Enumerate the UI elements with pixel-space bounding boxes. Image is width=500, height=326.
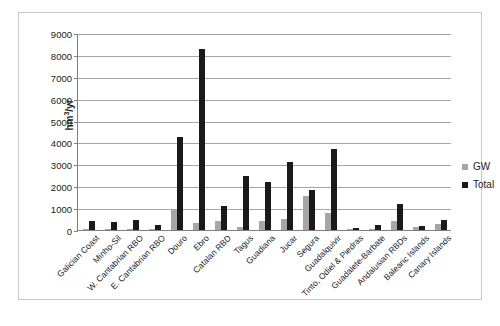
y-tick-label: 2000 bbox=[51, 182, 72, 193]
bar-gw bbox=[105, 229, 110, 231]
y-tick-label: 8000 bbox=[51, 50, 72, 61]
bar-gw bbox=[171, 210, 176, 230]
bar-gw bbox=[237, 227, 242, 230]
bar-group bbox=[149, 34, 160, 230]
x-axis-label: Douro bbox=[166, 233, 189, 256]
y-tick-label: 9000 bbox=[51, 29, 72, 40]
bar-group bbox=[215, 34, 226, 230]
bar-total bbox=[243, 176, 248, 230]
y-tick-mark bbox=[74, 231, 78, 232]
bar-total bbox=[89, 221, 94, 230]
y-tick-label: 0 bbox=[67, 226, 72, 237]
legend-item: Total bbox=[462, 179, 500, 190]
bar-group bbox=[347, 34, 358, 230]
bar-gw bbox=[413, 227, 418, 230]
y-tick-label: 4000 bbox=[51, 138, 72, 149]
bar-gw bbox=[215, 221, 220, 230]
bar-total bbox=[155, 225, 160, 230]
bar-gw bbox=[149, 229, 154, 231]
bar-total bbox=[133, 220, 138, 230]
y-tick-label: 3000 bbox=[51, 160, 72, 171]
bar-total bbox=[265, 182, 270, 230]
bar-total bbox=[441, 220, 446, 231]
bar-group bbox=[325, 34, 336, 230]
bar-total bbox=[287, 162, 292, 230]
y-tick-label: 5000 bbox=[51, 116, 72, 127]
y-tick-label: 1000 bbox=[51, 204, 72, 215]
x-axis-labels: Galician CoastMinho-SilW. Cantabrian RBO… bbox=[77, 233, 451, 326]
bar-group bbox=[127, 34, 138, 230]
bars-layer bbox=[78, 34, 451, 230]
plot-area: 0100020003000400050006000700080009000 bbox=[77, 34, 451, 231]
bar-total bbox=[111, 222, 116, 230]
y-tick-label: 7000 bbox=[51, 72, 72, 83]
bar-total bbox=[397, 204, 402, 230]
bar-total bbox=[419, 226, 424, 230]
bar-group bbox=[369, 34, 380, 230]
bar-total bbox=[199, 49, 204, 230]
y-tick-label: 6000 bbox=[51, 94, 72, 105]
bar-total bbox=[221, 206, 226, 230]
bar-group bbox=[259, 34, 270, 230]
legend-swatch-icon bbox=[462, 164, 468, 170]
bar-group bbox=[171, 34, 182, 230]
bar-gw bbox=[83, 229, 88, 231]
bar-total bbox=[353, 228, 358, 230]
bar-group bbox=[193, 34, 204, 230]
bar-group bbox=[83, 34, 94, 230]
bar-total bbox=[375, 225, 380, 230]
chart-legend: GWTotal bbox=[462, 161, 500, 197]
legend-label: Total bbox=[473, 179, 494, 190]
bar-gw bbox=[369, 229, 374, 231]
bar-total bbox=[177, 137, 182, 230]
bar-group bbox=[105, 34, 116, 230]
bar-gw bbox=[193, 223, 198, 230]
bar-gw bbox=[435, 224, 440, 230]
bar-gw bbox=[259, 221, 264, 230]
bar-gw bbox=[281, 219, 286, 230]
legend-item: GW bbox=[462, 161, 500, 172]
bar-gw bbox=[391, 221, 396, 230]
bar-gw bbox=[325, 213, 330, 230]
bar-group bbox=[413, 34, 424, 230]
chart-frame: hm3/yr 010002000300040005000600070008000… bbox=[18, 12, 482, 300]
bar-total bbox=[331, 149, 336, 230]
legend-swatch-icon bbox=[462, 182, 468, 188]
bar-group bbox=[281, 34, 292, 230]
bar-gw bbox=[127, 229, 132, 231]
bar-group bbox=[237, 34, 248, 230]
bar-group bbox=[303, 34, 314, 230]
bar-total bbox=[309, 190, 314, 230]
bar-gw bbox=[303, 196, 308, 230]
bar-group bbox=[391, 34, 402, 230]
bar-gw bbox=[347, 229, 352, 231]
bar-group bbox=[435, 34, 446, 230]
legend-label: GW bbox=[473, 161, 490, 172]
